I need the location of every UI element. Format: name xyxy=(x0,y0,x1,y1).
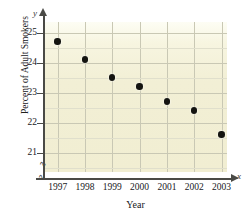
gridline-horizontal-minor xyxy=(44,168,227,169)
x-axis-line xyxy=(36,178,232,180)
data-point xyxy=(218,131,224,137)
gridline-horizontal-major xyxy=(44,93,227,94)
gridline-horizontal-minor xyxy=(44,108,227,109)
y-axis-line xyxy=(43,14,45,180)
x-axis-variable-label: x xyxy=(237,171,241,181)
gridline-horizontal-major xyxy=(44,123,227,124)
data-point xyxy=(54,38,60,44)
y-axis-tick-label: 21 xyxy=(28,147,38,157)
gridline-vertical xyxy=(112,22,113,172)
y-axis-arrowhead xyxy=(39,8,47,16)
y-axis-tick-label: 24 xyxy=(28,57,38,67)
gridline-vertical xyxy=(140,22,141,172)
gridline-horizontal-minor xyxy=(44,78,227,79)
plot-area xyxy=(44,22,227,172)
gridline-horizontal-minor xyxy=(44,48,227,49)
y-axis-break-marker: ∿ xyxy=(39,160,47,169)
y-axis-tick xyxy=(37,63,44,64)
y-axis-tick-label: 25 xyxy=(28,27,38,37)
gridline-horizontal-major xyxy=(44,153,227,154)
y-axis-tick xyxy=(37,153,44,154)
x-axis-tick-label: 2002 xyxy=(185,182,204,192)
data-point xyxy=(82,56,88,62)
x-axis-tick-label: 1999 xyxy=(103,182,122,192)
gridline-vertical xyxy=(85,22,86,172)
x-axis-tick-label: 1997 xyxy=(48,182,67,192)
scatter-plot-figure: y x ∿ ∿ Percent of Adult Smokers Year 21… xyxy=(0,0,251,224)
x-axis-tick-label: 2001 xyxy=(157,182,176,192)
x-axis-tick-label: 2003 xyxy=(212,182,231,192)
x-axis-tick-label: 2000 xyxy=(130,182,149,192)
gridline-horizontal-major xyxy=(44,33,227,34)
x-axis-title: Year xyxy=(44,199,227,210)
gridline-vertical xyxy=(167,22,168,172)
gridline-vertical xyxy=(194,22,195,172)
y-axis-tick-label: 22 xyxy=(28,117,38,127)
y-axis-tick xyxy=(37,93,44,94)
y-axis-tick xyxy=(37,33,44,34)
y-axis-tick-label: 23 xyxy=(28,87,38,97)
gridline-vertical xyxy=(222,22,223,172)
x-axis-tick-label: 1998 xyxy=(75,182,94,192)
gridline-horizontal-major xyxy=(44,63,227,64)
gridline-horizontal-minor xyxy=(44,138,227,139)
x-axis-break-marker: ∿ xyxy=(38,173,46,182)
data-point xyxy=(136,83,142,89)
y-axis-variable-label: y xyxy=(33,8,37,18)
data-point xyxy=(164,98,170,104)
y-axis-tick xyxy=(37,123,44,124)
